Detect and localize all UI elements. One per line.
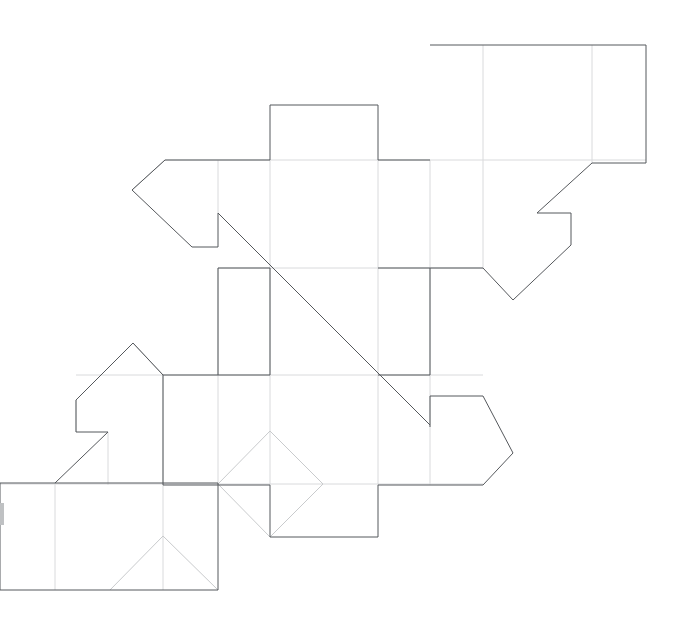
- dieline-svg: [0, 0, 682, 629]
- drawing-canvas: [0, 0, 682, 629]
- edge-mark-layer: [0, 503, 4, 525]
- left-edge-artifact: [0, 503, 4, 525]
- canvas-background: [0, 0, 682, 629]
